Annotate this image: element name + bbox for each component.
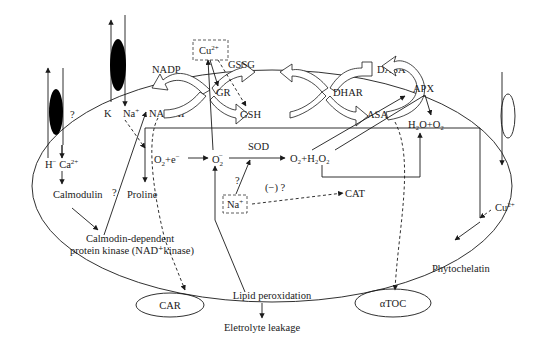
electrolyte-leakage-label: Eletrolyte leakage [224,322,300,333]
cat-label: CAT [345,188,365,199]
question-mark: ? [112,187,117,198]
car-label: CAR [159,300,181,311]
atoc-label: αTOC [380,298,406,309]
dhar-label: DHAR [333,87,363,98]
asa-label: ASA [367,109,388,120]
question-mark: ? [235,175,240,186]
h2o-o2-label: H₂O+O₂ [408,119,444,130]
question-mark: ? [70,109,75,120]
k-label: K [104,108,112,119]
ion-channel-left [48,68,63,158]
o2-h2o2-label: O₂+H₂O₂ [290,153,330,164]
apx-label: APX [413,83,434,94]
proline-label: Proline [127,189,158,200]
cdpk-label-1: Calmodin-dependent [86,233,174,244]
na-label: Na+ [123,107,139,119]
o2-e-label: O2+e− [154,153,180,168]
h-ca-label: H− Ca2+ [45,158,78,170]
gsh-label: GSH [240,109,261,120]
lipid-peroxidation-label: Lipid peroxidation [233,290,312,301]
na-box-label: Na+ [227,198,243,210]
sod-label: SOD [248,141,269,152]
superoxide-label: O2− [212,152,224,168]
pathway-diagram: ? K Na+ NADPII NADP Cu2+ GSSG GR GSH DHA… [0,0,535,345]
negative-question-label: (−) ? [265,182,286,194]
ion-channel-k-na [110,15,126,106]
phytochelatin-label: Phytochelatin [432,263,490,274]
gr-label: GR [216,87,231,98]
cu-right-label: Cu2+ [495,201,515,213]
cu-top-label: Cu2+ [199,44,219,56]
calmodulin-label: Calmodulin [53,189,103,200]
cdpk-label-2: protein kinase (NAD⁺kinase) [70,245,194,257]
gssg-label: GSSG [228,59,255,70]
ion-channel-right [501,72,515,165]
